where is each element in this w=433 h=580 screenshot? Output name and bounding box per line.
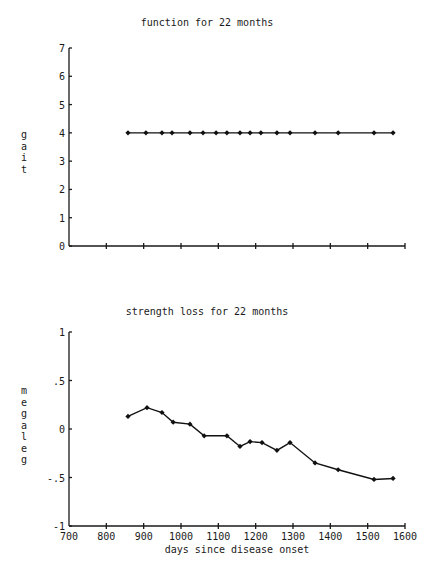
data-point-marker [371, 130, 376, 135]
y-tick-label: -.5 [47, 473, 65, 484]
data-point-marker [144, 405, 149, 410]
strength-axes: -1-.50.517008009001000110012001300140015… [47, 327, 417, 542]
svg-text:t: t [21, 164, 27, 175]
x-tick-label: 1500 [356, 531, 380, 542]
gait-axis-label: gait [21, 129, 27, 175]
data-point-marker [258, 130, 263, 135]
figure-caption-truncated [0, 574, 433, 580]
gait-series [125, 130, 395, 135]
y-tick-label: 1 [59, 327, 65, 338]
data-point-marker [187, 130, 192, 135]
svg-text:i: i [21, 152, 27, 163]
x-tick-label: 1200 [244, 531, 268, 542]
x-tick-label: 1100 [206, 531, 230, 542]
data-point-marker [259, 440, 264, 445]
y-tick-label: 1 [59, 213, 65, 224]
x-tick-label: 800 [97, 531, 115, 542]
x-tick-label: 700 [60, 531, 78, 542]
y-tick-label: 6 [59, 71, 65, 82]
data-point-marker [287, 130, 292, 135]
y-tick-label: 7 [59, 43, 65, 54]
x-tick-label: 1300 [281, 531, 305, 542]
data-point-marker [169, 130, 174, 135]
svg-text:g: g [21, 408, 27, 419]
data-point-marker [247, 439, 252, 444]
data-point-marker [371, 477, 376, 482]
data-point-marker [159, 130, 164, 135]
svg-text:g: g [21, 129, 27, 140]
data-point-marker [213, 130, 218, 135]
x-tick-label: 1600 [393, 531, 417, 542]
data-point-marker [312, 130, 317, 135]
strength-series [125, 405, 395, 482]
y-tick-label: 5 [59, 100, 65, 111]
x-axis-label: days since disease onset [165, 544, 310, 555]
strength-chart: strength loss for 22 months megaleg -1-.… [21, 306, 417, 555]
data-point-marker [247, 130, 252, 135]
svg-text:a: a [21, 420, 27, 431]
svg-text:l: l [21, 431, 27, 442]
svg-text:a: a [21, 141, 27, 152]
gait-axes: 01234567 [59, 43, 405, 252]
data-point-marker [200, 130, 205, 135]
svg-text:m: m [21, 385, 27, 396]
data-point-marker [336, 130, 341, 135]
strength-chart-title: strength loss for 22 months [126, 306, 289, 317]
y-tick-label: 2 [59, 184, 65, 195]
data-point-marker [125, 414, 130, 419]
data-point-marker [336, 467, 341, 472]
y-tick-label: 0 [59, 241, 65, 252]
megaleg-axis-label: megaleg [21, 385, 27, 465]
x-tick-label: 1000 [169, 531, 193, 542]
y-tick-label: 4 [59, 128, 65, 139]
svg-text:e: e [21, 397, 27, 408]
svg-text:e: e [21, 443, 27, 454]
y-tick-label: 0 [59, 424, 65, 435]
data-point-marker [237, 130, 242, 135]
svg-text:g: g [21, 454, 27, 465]
y-tick-label: .5 [53, 376, 65, 387]
data-point-marker [390, 476, 395, 481]
x-tick-label: 900 [135, 531, 153, 542]
data-point-marker [143, 130, 148, 135]
figure: function for 22 months gait 01234567 str… [0, 0, 433, 580]
data-point-marker [274, 130, 279, 135]
x-tick-label: 1400 [318, 531, 342, 542]
y-tick-label: 3 [59, 156, 65, 167]
data-point-marker [390, 130, 395, 135]
gait-chart-title: function for 22 months [141, 17, 273, 28]
chart-canvas: function for 22 months gait 01234567 str… [0, 0, 433, 580]
data-point-marker [224, 130, 229, 135]
gait-chart: function for 22 months gait 01234567 [21, 17, 405, 252]
data-point-marker [125, 130, 130, 135]
